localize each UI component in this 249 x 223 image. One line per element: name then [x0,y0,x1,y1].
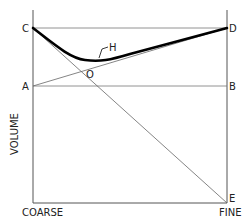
curve-h [33,28,227,61]
volume-diagram: C A D B E O H VOLUME COARSE FINE [0,0,249,223]
label-o: O [86,69,94,80]
h-leader-line [99,47,108,58]
label-a: A [22,81,29,92]
label-d: D [229,23,237,34]
label-c: C [22,23,29,34]
label-e: E [229,193,235,204]
y-axis-label: VOLUME [9,113,20,155]
x-axis-end-label: FINE [219,207,242,218]
label-b: B [229,81,236,92]
label-h: H [109,42,117,53]
x-axis-start-label: COARSE [22,207,63,218]
